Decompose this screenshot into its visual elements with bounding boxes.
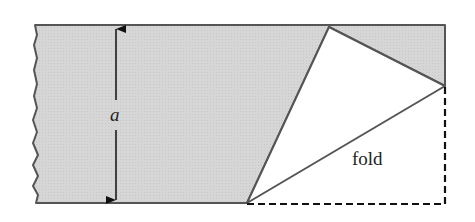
height-label: a <box>110 104 120 125</box>
fold-label: fold <box>352 148 383 169</box>
folded-paper-diagram: a fold <box>0 0 475 222</box>
